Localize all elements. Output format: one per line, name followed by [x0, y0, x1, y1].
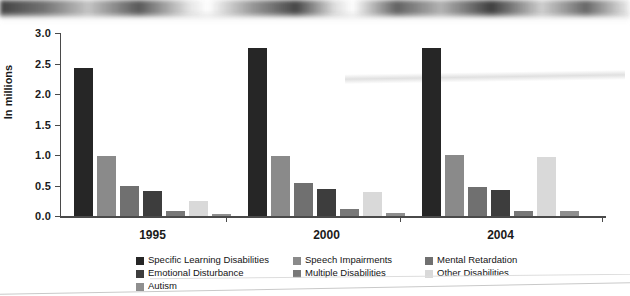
bar: [166, 211, 185, 216]
bar: [560, 211, 579, 216]
bar: [363, 192, 382, 216]
x-axis-line: [60, 216, 606, 218]
bar: [212, 214, 231, 216]
y-axis-tick-label: 2.0: [35, 88, 51, 100]
bar: [294, 183, 313, 216]
bar: [386, 213, 405, 216]
bar: [422, 48, 441, 216]
bar: [143, 191, 162, 216]
legend-swatch-icon: [136, 257, 144, 265]
bar: [74, 68, 93, 216]
bar: [97, 156, 116, 216]
legend-item[interactable]: Speech Impairments: [293, 254, 425, 266]
scan-artifact-fade: [0, 13, 630, 23]
bar: [189, 201, 208, 216]
x-axis-tick-label: 2004: [487, 228, 514, 242]
x-axis-tick-label: 1995: [139, 228, 166, 242]
bar: [491, 190, 510, 216]
plot-area: 0.00.51.01.52.02.53.0 199520002004: [60, 33, 606, 217]
bar: [317, 189, 336, 216]
bar: [271, 156, 290, 216]
y-axis-tick: [55, 186, 61, 187]
y-axis-tick: [55, 125, 61, 126]
x-axis-separator-tick: [226, 216, 227, 222]
y-axis-tick-label: 0.5: [35, 180, 51, 192]
legend-row: Specific Learning DisabilitiesSpeech Imp…: [136, 254, 556, 267]
x-axis-end-tick: [602, 216, 603, 222]
legend-item-label: Specific Learning Disabilities: [148, 254, 269, 266]
legend-swatch-icon: [293, 257, 301, 265]
bar: [537, 157, 556, 216]
y-axis-tick: [55, 94, 61, 95]
x-axis-tick-label: 2000: [313, 228, 340, 242]
y-axis-tick-label: 1.5: [35, 119, 51, 131]
bar: [248, 48, 267, 216]
page-edge-artifact: [0, 274, 630, 296]
y-axis-title: In millions: [2, 65, 14, 119]
bar: [514, 211, 533, 216]
y-axis-tick-label: 1.0: [35, 149, 51, 161]
bar: [445, 155, 464, 216]
bar-chart-figure: 0.00.51.01.52.02.53.0 199520002004 In mi…: [0, 0, 630, 296]
bar: [120, 186, 139, 216]
y-axis-tick-label: 0.0: [35, 210, 51, 222]
y-axis-tick: [55, 33, 61, 34]
legend-item-label: Mental Retardation: [437, 254, 517, 266]
legend-item-label: Speech Impairments: [305, 254, 392, 266]
y-axis-tick: [55, 155, 61, 156]
y-axis-tick: [55, 64, 61, 65]
legend-swatch-icon: [425, 257, 433, 265]
x-axis-separator-tick: [400, 216, 401, 222]
y-axis-tick-label: 3.0: [35, 27, 51, 39]
legend-item[interactable]: Specific Learning Disabilities: [136, 254, 293, 266]
y-axis-tick-label: 2.5: [35, 58, 51, 70]
bar: [468, 187, 487, 216]
bar: [340, 209, 359, 216]
y-axis-tick: [55, 216, 61, 217]
legend-item[interactable]: Mental Retardation: [425, 254, 517, 266]
